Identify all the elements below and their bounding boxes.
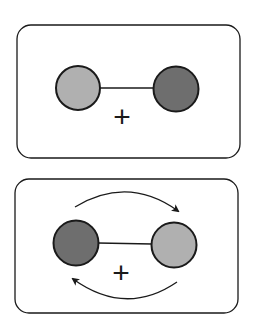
charge-label: + — [112, 256, 130, 289]
right-atom — [154, 67, 199, 112]
panel-bottom-frame — [15, 179, 238, 313]
panel-top: + — [17, 25, 240, 158]
panel-top-frame — [17, 25, 240, 158]
diagram: + + — [0, 0, 254, 329]
left-atom — [54, 221, 99, 266]
panel-bottom: + — [15, 179, 238, 313]
left-atom — [56, 66, 100, 110]
charge-label: + — [113, 100, 131, 133]
right-atom — [152, 223, 197, 268]
bond-line — [98, 243, 152, 244]
